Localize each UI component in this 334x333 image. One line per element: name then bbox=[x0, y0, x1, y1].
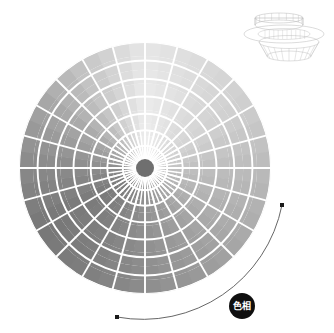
inset-edge bbox=[300, 48, 304, 61]
wheel-cell[interactable] bbox=[130, 56, 145, 71]
diagram-canvas: 色相 bbox=[0, 0, 334, 333]
wheel-cell[interactable] bbox=[33, 153, 48, 168]
wheel-cell[interactable] bbox=[144, 252, 157, 266]
wheel-cell[interactable] bbox=[144, 279, 161, 294]
wheel-cell[interactable] bbox=[144, 238, 156, 252]
arc-start-marker[interactable] bbox=[115, 315, 119, 319]
wheel-cell[interactable] bbox=[60, 167, 74, 179]
wheel-cell[interactable] bbox=[229, 155, 243, 168]
hue-wheel-diagram: 色相 bbox=[0, 0, 334, 333]
wheel-cell[interactable] bbox=[145, 56, 160, 71]
inset-edge bbox=[274, 48, 278, 61]
inset-ellipse bbox=[259, 36, 319, 49]
wheel-center-hub[interactable] bbox=[136, 159, 154, 177]
inset-edge bbox=[281, 48, 283, 61]
wheel-cell[interactable] bbox=[242, 153, 257, 168]
wheel-cell[interactable] bbox=[129, 42, 146, 57]
inset-edge bbox=[295, 48, 297, 61]
inset-edge bbox=[268, 47, 274, 60]
wheel-cell[interactable] bbox=[19, 151, 34, 168]
wheel-cell[interactable] bbox=[256, 152, 271, 169]
hue-badge-label: 色相 bbox=[233, 300, 251, 311]
wheel-cell[interactable] bbox=[242, 168, 257, 183]
inset-edge bbox=[308, 45, 315, 58]
arc-end-marker[interactable] bbox=[280, 203, 284, 207]
wheel-cell[interactable] bbox=[33, 167, 48, 182]
wheel-cell[interactable] bbox=[132, 70, 145, 84]
wheel-cell[interactable] bbox=[215, 157, 229, 169]
wheel-cell[interactable] bbox=[19, 167, 34, 184]
inset-edge bbox=[263, 45, 270, 58]
wheel-cell[interactable] bbox=[256, 168, 271, 185]
wheel-cell[interactable] bbox=[145, 42, 162, 57]
wheel-cell[interactable] bbox=[130, 265, 145, 280]
hue-badge[interactable]: 色相 bbox=[229, 293, 255, 319]
wheel-cell[interactable] bbox=[144, 265, 159, 280]
inset-ellipse bbox=[244, 25, 324, 43]
inset-edge bbox=[311, 42, 319, 56]
wheel-cell[interactable] bbox=[47, 167, 61, 180]
inset-edge bbox=[305, 47, 311, 60]
wheel-cell[interactable] bbox=[134, 83, 146, 97]
wheel-cell[interactable] bbox=[128, 279, 145, 294]
wireframe-3d-inset[interactable] bbox=[244, 13, 324, 61]
